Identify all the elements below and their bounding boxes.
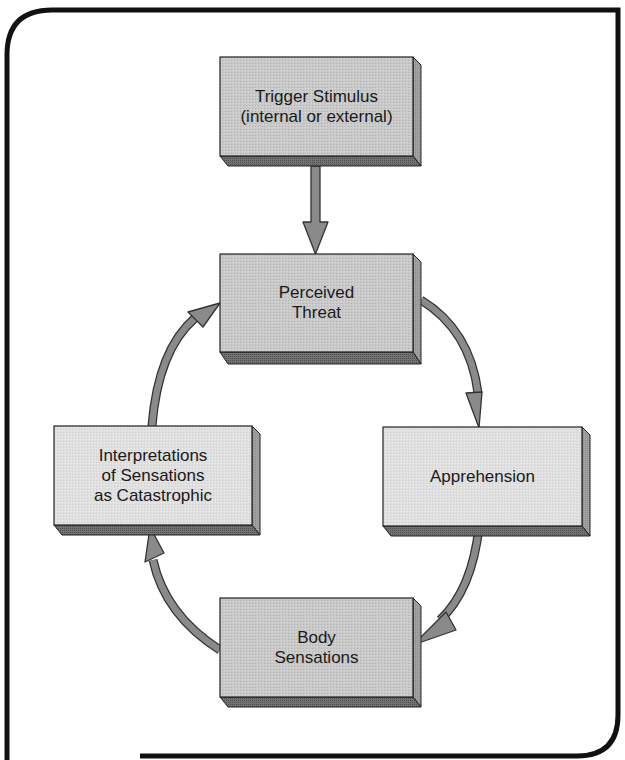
arrow-trigger-to-threat (303, 166, 328, 254)
arrow-apprehension-to-body (413, 527, 479, 645)
arrow-interpretations-to-threat (152, 303, 220, 426)
arrow-body-to-interpretations (145, 527, 220, 650)
label-apprehension: Apprehension (383, 427, 582, 526)
panic-cycle-diagram: Trigger Stimulus (internal or external) … (0, 0, 625, 760)
label-trigger-stimulus: Trigger Stimulus (internal or external) (220, 57, 413, 156)
label-interpretations: Interpretations of Sensations as Catastr… (54, 426, 252, 525)
label-perceived-threat: Perceived Threat (220, 254, 413, 352)
arrow-threat-to-apprehension (421, 300, 482, 428)
label-body-sensations: Body Sensations (220, 598, 413, 697)
